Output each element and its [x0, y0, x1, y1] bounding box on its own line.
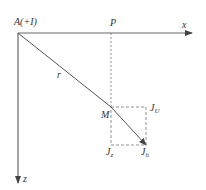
jz-label: Jz	[106, 146, 113, 159]
point-p-label: P	[109, 17, 116, 28]
point-m-label: M	[100, 109, 110, 120]
ju-label: JU	[150, 102, 160, 115]
jh-label: Jh	[141, 146, 149, 159]
diagram-svg: A(+I) x z P r M JU Jz Jh	[0, 0, 206, 190]
z-axis-label: z	[22, 173, 27, 184]
radius-line	[18, 33, 111, 107]
origin-label: A(+I)	[13, 16, 38, 28]
x-axis-label: x	[181, 19, 187, 30]
radius-label: r	[57, 69, 61, 80]
field-diagram: A(+I) x z P r M JU Jz Jh	[0, 0, 206, 190]
jh-vector	[111, 107, 146, 145]
